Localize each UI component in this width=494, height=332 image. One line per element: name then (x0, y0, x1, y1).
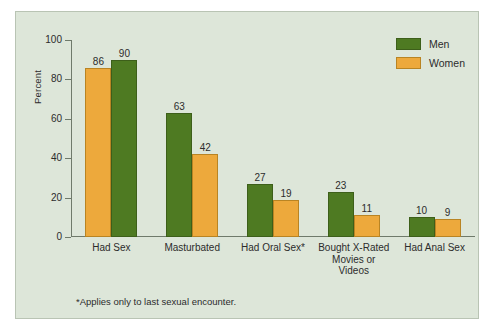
bar-value-label: 23 (335, 181, 346, 191)
category-label-line: Masturbated (152, 242, 233, 254)
y-tick-label: 100 (45, 35, 62, 45)
legend-label-women: Women (429, 58, 465, 69)
bar-value-label: 63 (174, 102, 185, 112)
bar-value-label: 90 (119, 49, 130, 59)
bar-men: 63 (166, 113, 192, 237)
bar-women: 86 (85, 68, 111, 237)
bar-women: 42 (192, 154, 218, 237)
bar-value-label: 11 (362, 204, 372, 214)
bar-group: 2311 (313, 40, 394, 237)
bar-women: 9 (435, 219, 461, 237)
category-label: Masturbated (152, 242, 233, 254)
category-label-line: Had Sex (71, 242, 152, 254)
category-label-line: Bought X-Rated (313, 242, 394, 254)
bar-women: 19 (273, 200, 299, 237)
chart-legend: Men Women (396, 38, 484, 76)
bar-value-label: 9 (445, 208, 451, 218)
category-label-line: Movies or (313, 254, 394, 266)
legend-item-men: Men (396, 38, 484, 50)
bar-group: 6342 (152, 40, 233, 237)
y-tick-label: 80 (51, 74, 62, 84)
y-tick-mark (65, 237, 71, 238)
y-tick-label: 60 (51, 114, 62, 124)
y-tick-label: 20 (51, 193, 62, 203)
category-label-line: Had Anal Sex (394, 242, 475, 254)
y-axis-title: Percent (32, 70, 43, 104)
bar-men: 10 (409, 217, 435, 237)
bar-men: 23 (328, 192, 354, 237)
bar-value-label: 19 (280, 189, 291, 199)
x-axis-category-labels: Had SexMasturbatedHad Oral Sex*Bought X-… (71, 242, 475, 288)
legend-swatch-women (396, 57, 421, 69)
legend-label-men: Men (429, 39, 449, 50)
y-tick-label: 0 (56, 232, 62, 242)
category-label: Had Sex (71, 242, 152, 254)
bar-value-label: 42 (200, 143, 211, 153)
bar-men: 27 (247, 184, 273, 237)
category-label-line: Videos (313, 265, 394, 277)
chart-figure: Percent 020406080100 8690634227192311109… (0, 0, 494, 332)
bar-group: 2719 (233, 40, 314, 237)
bar-value-label: 86 (93, 57, 104, 67)
bar-women: 11 (354, 215, 380, 237)
category-label: Bought X-RatedMovies orVideos (313, 242, 394, 277)
category-label: Had Anal Sex (394, 242, 475, 254)
legend-item-women: Women (396, 57, 484, 69)
bar-group: 8690 (71, 40, 152, 237)
category-label-line: Had Oral Sex* (233, 242, 314, 254)
legend-swatch-men (396, 38, 421, 50)
category-label: Had Oral Sex* (233, 242, 314, 254)
y-tick-label: 40 (51, 153, 62, 163)
bar-value-label: 27 (254, 173, 265, 183)
chart-panel: Percent 020406080100 8690634227192311109… (15, 11, 479, 319)
bar-value-label: 10 (416, 206, 427, 216)
chart-footnote: *Applies only to last sexual encounter. (76, 296, 236, 307)
bar-men: 90 (111, 60, 137, 237)
